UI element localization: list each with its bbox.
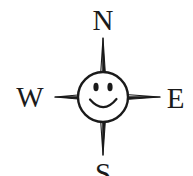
right-eye-icon — [107, 83, 112, 92]
direction-label-east: E — [158, 84, 193, 113]
smiley-face-group — [78, 72, 128, 122]
face-circle — [78, 72, 128, 122]
left-eye-icon — [93, 83, 98, 92]
direction-label-north: N — [83, 6, 123, 35]
direction-label-south: S — [83, 159, 123, 176]
direction-label-west: W — [10, 83, 50, 112]
compass-rose-figure: N W E S — [0, 0, 193, 176]
